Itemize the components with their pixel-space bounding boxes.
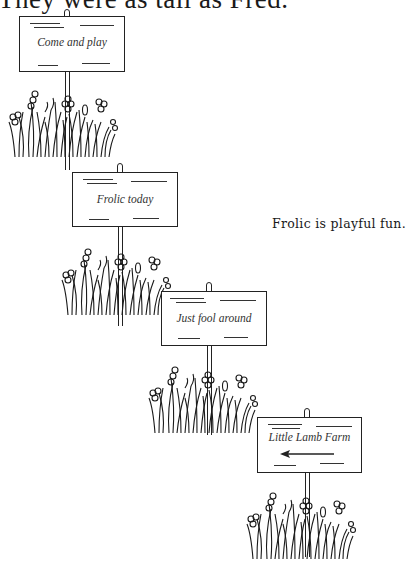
sign-text: Just fool around [162,312,266,324]
sign-board: Just fool around [161,291,267,346]
grass-flowers-illustration [5,82,125,162]
sign-text: Come and play [20,36,124,48]
grass-flowers-illustration [243,484,363,561]
grass-flowers-illustration [145,358,265,438]
grass-flowers-illustration [58,240,178,320]
definition-note: Frolic is playful fun. [272,216,406,231]
caption-text: They were as tall as Fred. [0,0,288,15]
sign-text: Frolic today [73,193,177,205]
sign-board: Frolic today [72,172,178,227]
sign-text: Little Lamb Farm [258,431,361,443]
sign-board: Come and play [19,16,125,72]
arrow-left-icon [280,449,336,459]
sign-board: Little Lamb Farm [257,417,362,473]
